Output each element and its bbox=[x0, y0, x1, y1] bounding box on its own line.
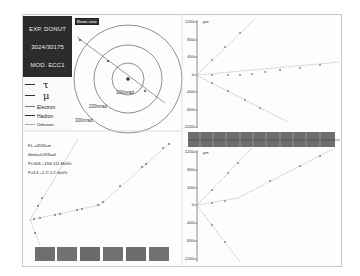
tick-label: 1200 bbox=[180, 149, 194, 154]
momentum: P=3.3 +1.7/-1.2 GeV/c bbox=[28, 168, 72, 177]
tick-label: -1200 bbox=[180, 256, 194, 261]
tick-label: 1200 bbox=[180, 19, 194, 24]
kink-angle: θkink=0.093rad bbox=[28, 150, 72, 159]
bottom-right-axis bbox=[194, 150, 197, 262]
tick-label: 800 bbox=[180, 37, 194, 42]
top-right-axis bbox=[194, 20, 197, 128]
tick-label: -800 bbox=[180, 238, 194, 243]
ring-label-100mrad: 100mrad bbox=[116, 90, 134, 95]
beam-view-label: Beam view bbox=[75, 18, 99, 25]
ring-label-200mrad: 200mrad bbox=[89, 104, 107, 109]
unit-label: μm bbox=[203, 19, 209, 24]
side-view-detector-strip bbox=[35, 247, 169, 261]
beam-view bbox=[74, 25, 182, 133]
ring-label-300mrad: 300mrad bbox=[75, 118, 93, 123]
tick-label: -400 bbox=[180, 220, 194, 225]
tick-label: -400 bbox=[180, 89, 194, 94]
flight-length: F.L.=4535cm bbox=[28, 141, 72, 150]
kink-parameters: F.L.=4535cm θkink=0.093rad Pt>306 +194/-… bbox=[28, 141, 72, 177]
tick-label: 0 bbox=[180, 72, 194, 77]
transverse-momentum: Pt>306 +194/-111 MeV/c bbox=[28, 159, 72, 168]
tick-label: -800 bbox=[180, 107, 194, 112]
vertex-point bbox=[127, 78, 130, 81]
top-right-tracks bbox=[198, 19, 340, 122]
tick-label: -1200 bbox=[180, 124, 194, 129]
bottom-right-tracks bbox=[198, 148, 335, 262]
tick-label: 0 bbox=[180, 202, 194, 207]
tick-label: 400 bbox=[180, 185, 194, 190]
unit-label: μm bbox=[203, 150, 209, 155]
tick-label: 800 bbox=[180, 167, 194, 172]
tick-label: 400 bbox=[180, 54, 194, 59]
detector-bar bbox=[188, 132, 340, 147]
